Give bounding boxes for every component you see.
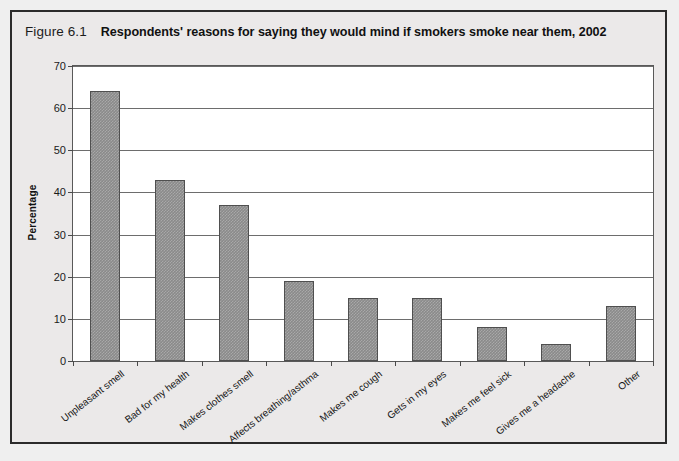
- x-tick-label: Makes me cough: [317, 367, 385, 424]
- y-tick-label: 70: [54, 60, 66, 72]
- x-axis-labels: Unpleasant smellBad for my healthMakes c…: [72, 361, 654, 441]
- y-axis-title: Percentage: [25, 65, 41, 360]
- gridline: [73, 66, 653, 67]
- gridline: [73, 108, 653, 109]
- y-tick-mark: [68, 108, 73, 109]
- y-tick-label: 40: [54, 186, 66, 198]
- bar-chart: Percentage 010203040506070 Unpleasant sm…: [12, 12, 665, 442]
- y-tick-mark: [68, 66, 73, 67]
- plot-area: 010203040506070: [72, 65, 654, 362]
- y-tick-label: 30: [54, 229, 66, 241]
- y-tick-label: 50: [54, 144, 66, 156]
- x-tick-label: Unpleasant smell: [59, 367, 128, 424]
- figure-frame: Figure 6.1 Respondents' reasons for sayi…: [10, 10, 667, 444]
- y-tick-mark: [68, 192, 73, 193]
- y-tick-mark: [68, 150, 73, 151]
- x-tick-label: Gets in my eyes: [385, 367, 450, 421]
- gridline: [73, 150, 653, 151]
- y-tick-mark: [68, 277, 73, 278]
- x-tick-label: Other: [615, 367, 643, 392]
- y-tick-mark: [68, 235, 73, 236]
- bar: [90, 91, 120, 361]
- y-tick-label: 20: [54, 271, 66, 283]
- y-tick-label: 10: [54, 313, 66, 325]
- y-tick-mark: [68, 319, 73, 320]
- y-tick-label: 60: [54, 102, 66, 114]
- y-tick-label: 0: [60, 355, 66, 367]
- figure-page: Figure 6.1 Respondents' reasons for sayi…: [0, 0, 679, 461]
- x-tick-label: Bad for my health: [122, 367, 192, 425]
- y-axis-title-label: Percentage: [28, 185, 39, 241]
